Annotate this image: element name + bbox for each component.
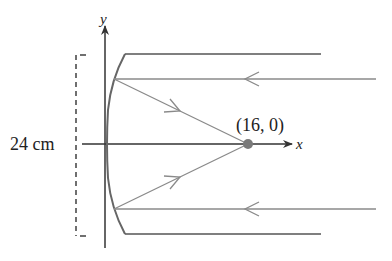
aperture-label: 24 cm <box>10 134 55 154</box>
upper-reflected-ray <box>114 79 248 144</box>
lower-reflected-ray <box>114 144 248 209</box>
focus-label: (16, 0) <box>236 115 284 136</box>
y-axis-label: y <box>98 11 107 27</box>
x-axis-label: x <box>295 136 303 152</box>
aperture-bracket <box>76 55 86 236</box>
upper-incoming-ray <box>114 72 376 86</box>
lower-incoming-ray <box>114 202 376 216</box>
focus-point <box>243 139 253 149</box>
parabolic-mirror-diagram: y x 24 cm (16 <box>0 0 392 261</box>
